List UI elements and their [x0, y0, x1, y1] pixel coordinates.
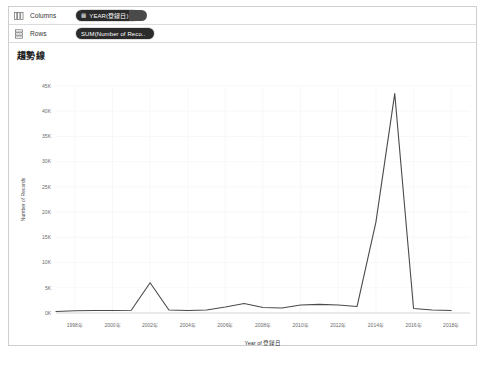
svg-text:2016年: 2016年 — [405, 322, 421, 329]
chart-canvas: 0K5K10K15K20K25K30K35K40K45K 1998年2000年2… — [9, 62, 478, 360]
svg-text:2004年: 2004年 — [180, 322, 196, 329]
svg-text:2018年: 2018年 — [443, 322, 459, 329]
svg-text:25K: 25K — [42, 184, 52, 190]
svg-text:45K: 45K — [42, 83, 52, 89]
svg-text:30K: 30K — [42, 158, 52, 164]
columns-shelf[interactable]: Columns ▦ YEAR(登録日) — [9, 7, 476, 25]
svg-text:40K: 40K — [42, 108, 52, 114]
columns-shelf-label: Columns — [30, 12, 74, 19]
svg-text:2002年: 2002年 — [142, 322, 158, 329]
svg-text:15K: 15K — [42, 234, 52, 240]
data-line-series — [56, 94, 451, 312]
pill-tail-decoration — [129, 10, 147, 21]
svg-text:2012年: 2012年 — [330, 322, 346, 329]
page-title: 趨勢線 — [9, 43, 476, 62]
pill-sum-number-of-records[interactable]: SUM(Number of Reco.. — [76, 28, 154, 39]
svg-text:2000年: 2000年 — [104, 322, 120, 329]
x-axis: 1998年2000年2002年2004年2006年2008年2010年2012年… — [56, 313, 470, 329]
tableau-viz-window: Columns ▦ YEAR(登録日) Rows SUM(Number of R… — [8, 6, 477, 346]
svg-text:20K: 20K — [42, 209, 52, 215]
line-chart: 0K5K10K15K20K25K30K35K40K45K 1998年2000年2… — [9, 62, 478, 360]
svg-text:2014年: 2014年 — [368, 322, 384, 329]
svg-text:1998年: 1998年 — [67, 322, 83, 329]
columns-shelf-field[interactable]: ▦ YEAR(登録日) — [74, 10, 476, 21]
svg-text:35K: 35K — [42, 133, 52, 139]
svg-text:2010年: 2010年 — [293, 322, 309, 329]
svg-text:10K: 10K — [42, 259, 52, 265]
svg-text:0K: 0K — [45, 310, 52, 316]
svg-text:2008年: 2008年 — [255, 322, 271, 329]
rows-shelf-field[interactable]: SUM(Number of Reco.. — [74, 28, 476, 39]
rows-shelf[interactable]: Rows SUM(Number of Reco.. — [9, 25, 476, 43]
y-axis-title: Number of Records — [20, 177, 26, 221]
svg-text:2006年: 2006年 — [217, 322, 233, 329]
pill-date-icon: ▦ — [81, 13, 86, 19]
rows-grid-icon — [14, 29, 24, 39]
y-axis: 0K5K10K15K20K25K30K35K40K45K — [42, 83, 52, 316]
x-axis-title: Year of 登録日 — [245, 339, 282, 347]
svg-text:5K: 5K — [45, 285, 52, 291]
columns-grid-icon — [14, 11, 24, 21]
pill-label: SUM(Number of Reco.. — [81, 31, 145, 37]
rows-shelf-label: Rows — [30, 30, 74, 37]
pill-label: YEAR(登録日) — [89, 11, 128, 20]
chart-gridlines — [56, 86, 470, 313]
